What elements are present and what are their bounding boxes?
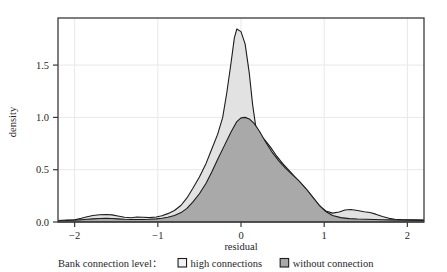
- x-tick-label: −2: [69, 230, 80, 241]
- legend-item-label: high connections: [191, 258, 262, 269]
- y-tick-label: 1.5: [36, 60, 49, 71]
- x-tick-label: −1: [152, 230, 163, 241]
- legend: Bank connection level：high connectionswi…: [58, 258, 374, 269]
- legend-swatch[interactable]: [280, 259, 289, 268]
- y-tick-label: 0.5: [36, 164, 49, 175]
- legend-title: Bank connection level：: [58, 258, 162, 269]
- legend-item-high-connections[interactable]: high connections: [178, 258, 262, 269]
- x-tick-label: 0: [238, 230, 243, 241]
- x-tick-label: 2: [405, 230, 410, 241]
- y-tick-label: 1.0: [36, 112, 49, 123]
- chart-svg: −2−10120.00.51.01.5 residual density Ban…: [0, 0, 447, 272]
- legend-item-label: without connection: [293, 258, 375, 269]
- x-axis-title: residual: [224, 241, 257, 252]
- legend-swatch[interactable]: [178, 259, 187, 268]
- density-plot-figure: −2−10120.00.51.01.5 residual density Ban…: [0, 0, 447, 272]
- y-tick-label: 0.0: [36, 217, 49, 228]
- legend-item-without-connection[interactable]: without connection: [280, 258, 374, 269]
- x-tick-label: 1: [322, 230, 327, 241]
- y-axis-title: density: [7, 106, 18, 137]
